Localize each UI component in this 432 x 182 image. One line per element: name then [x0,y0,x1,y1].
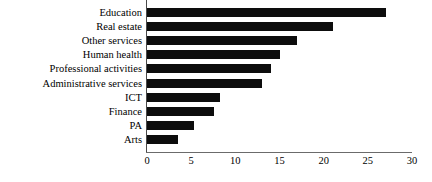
y-axis-line [146,0,147,153]
x-axis-tick-labels: 051015202530 [147,155,412,175]
category-label: Finance [0,106,142,117]
category-label: Real estate [0,21,142,32]
category-label: Education [0,7,142,18]
x-tick-label: 30 [407,155,418,167]
bar [147,22,333,31]
bar [147,121,194,130]
bar [147,36,297,45]
x-tick-label: 0 [144,155,149,167]
x-tick-label: 25 [363,155,374,167]
bar [147,135,178,144]
category-label: Professional activities [0,63,142,74]
bar [147,64,271,73]
category-label: PA [0,120,142,131]
bar [147,79,262,88]
plot-area [147,0,412,148]
bar [147,107,214,116]
category-label: ICT [0,92,142,103]
category-label: Human health [0,49,142,60]
category-label: Administrative services [0,78,142,89]
category-label: Arts [0,134,142,145]
category-label: Other services [0,35,142,46]
bar [147,8,386,17]
bar [147,50,280,59]
x-tick-label: 10 [230,155,241,167]
category-axis-labels: EducationReal estateOther servicesHuman … [0,0,146,148]
x-tick-label: 15 [274,155,285,167]
bar [147,93,220,102]
x-tick-label: 20 [318,155,329,167]
x-axis-line [146,152,412,153]
horizontal-bar-chart: EducationReal estateOther servicesHuman … [0,0,432,182]
x-tick-label: 5 [189,155,194,167]
